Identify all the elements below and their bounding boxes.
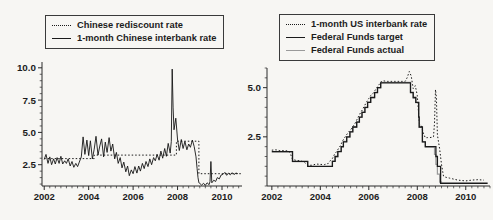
y-tick-label: 5.0 <box>247 82 261 93</box>
x-tick-label: 2008 <box>167 191 188 202</box>
dotted-line-sample-icon <box>286 24 305 25</box>
legend-label: Federal Funds actual <box>311 44 404 57</box>
solid-line-sample-icon <box>52 38 71 39</box>
x-tick-label: 2002 <box>34 191 55 202</box>
y-tick-label: 2.5 <box>22 159 36 170</box>
legend-label: Chinese rediscount rate <box>77 19 183 32</box>
us-chart-panel: 1-month US interbank rate Federal Funds … <box>246 0 493 220</box>
x-tick-label: 2004 <box>310 191 332 202</box>
series-1-month-chinese-interbank-rate <box>44 69 238 185</box>
x-tick-label: 2006 <box>358 191 379 202</box>
legend-label: Federal Funds target <box>311 31 403 44</box>
legend-item-ff-actual: Federal Funds actual <box>286 44 427 57</box>
x-tick-label: 2010 <box>211 191 232 202</box>
us-chart-legend: 1-month US interbank rate Federal Funds … <box>279 14 435 61</box>
x-tick-label: 2008 <box>407 191 428 202</box>
legend-item-ff-target: Federal Funds target <box>286 31 427 44</box>
gray-line-sample-icon <box>286 50 305 51</box>
legend-item-rediscount: Chinese rediscount rate <box>52 19 216 32</box>
china-chart-panel: Chinese rediscount rate 1-month Chinese … <box>0 0 246 220</box>
dotted-line-sample-icon <box>52 25 71 26</box>
legend-item-interbank: 1-month Chinese interbank rate <box>52 32 216 45</box>
series-federal-funds-target <box>272 83 488 184</box>
x-tick-label: 2010 <box>455 191 476 202</box>
y-tick-label: 10.0 <box>17 62 37 73</box>
legend-item-us-interbank: 1-month US interbank rate <box>286 18 427 31</box>
series-chinese-rediscount-rate <box>44 141 242 174</box>
y-tick-label: 5.0 <box>22 127 36 138</box>
china-chart-legend: Chinese rediscount rate 1-month Chinese … <box>45 15 224 49</box>
x-tick-label: 2006 <box>123 191 144 202</box>
y-tick-label: 2.5 <box>247 131 261 142</box>
y-tick-label: 7.5 <box>22 95 36 106</box>
legend-label: 1-month US interbank rate <box>311 18 427 31</box>
dual-rate-chart-figure: Chinese rediscount rate 1-month Chinese … <box>0 0 493 220</box>
legend-label: 1-month Chinese interbank rate <box>77 32 216 45</box>
x-tick-label: 2004 <box>78 191 100 202</box>
solid-line-sample-icon <box>286 37 305 38</box>
x-tick-label: 2002 <box>261 191 282 202</box>
series-federal-funds-actual <box>272 82 488 182</box>
